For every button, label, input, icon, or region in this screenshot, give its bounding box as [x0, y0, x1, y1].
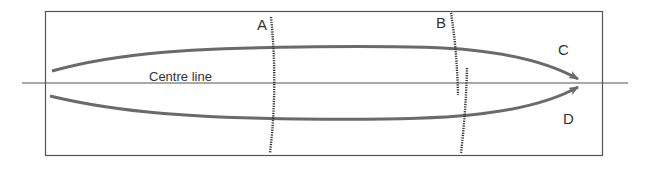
- label-c: C: [558, 41, 569, 58]
- label-d: D: [563, 110, 574, 127]
- flow-diagram: Centre line A B C D: [0, 0, 654, 171]
- section-line-b-lower: [461, 68, 467, 153]
- label-b: B: [436, 14, 446, 31]
- lower-flow-curve-d: [50, 87, 578, 119]
- centre-line-label: Centre line: [149, 69, 212, 84]
- upper-flow-curve-c: [52, 47, 578, 79]
- label-a: A: [257, 16, 267, 33]
- section-line-a: [270, 17, 274, 153]
